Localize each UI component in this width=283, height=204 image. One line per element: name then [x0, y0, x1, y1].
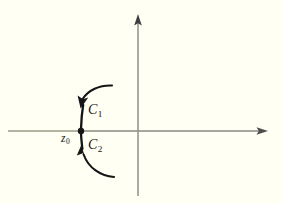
label-c2-base: C	[88, 137, 97, 152]
label-z0-subscript: 0	[65, 137, 69, 146]
label-c1: C1	[88, 103, 102, 119]
label-c2-subscript: 2	[97, 144, 102, 154]
label-c2: C2	[88, 138, 102, 154]
paper-background	[0, 0, 283, 204]
contour-figure: z0 C1 C2	[0, 0, 283, 204]
label-z0: z0	[61, 133, 70, 146]
label-c1-base: C	[88, 102, 97, 117]
point-marker-z0	[78, 128, 84, 134]
figure-canvas	[0, 0, 283, 204]
label-c1-subscript: 1	[97, 109, 102, 119]
